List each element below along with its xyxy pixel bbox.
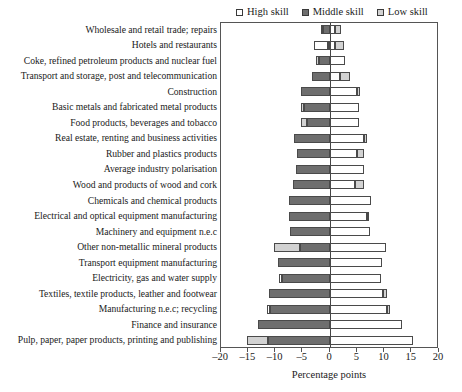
category-label: Real estate, renting and business activi… [0, 133, 217, 143]
bar-row [221, 178, 437, 194]
category-label: Construction [0, 87, 217, 97]
bar-segment-high-skill [330, 180, 355, 189]
bar-segment-high-skill [330, 118, 359, 127]
x-axis-tick-label: 15 [406, 352, 417, 363]
plot-area [220, 22, 438, 348]
square-outline-icon [236, 9, 243, 16]
bar-row [221, 225, 437, 241]
square-light-icon [377, 9, 384, 16]
bar-segment-high-skill [330, 305, 387, 314]
category-label: Food products, beverages and tobacco [0, 118, 217, 128]
bar-row [221, 163, 437, 179]
bar-segment-high-skill [330, 320, 402, 329]
x-axis-tick-label: 20 [433, 352, 444, 363]
category-label: Wood and products of wood and cork [0, 180, 217, 190]
bar-segment-high-skill [330, 336, 413, 345]
legend-label-low-skill: Low skill [388, 7, 428, 18]
bar-segment-low-skill [367, 212, 370, 221]
bar-segment-high-skill [330, 134, 364, 143]
bar-segment-high-skill [330, 196, 371, 205]
bar-segment-high-skill [330, 289, 383, 298]
category-label: Machinery and equipment n.e.c [0, 227, 217, 237]
category-label: Transport and storage, post and telecomm… [0, 71, 217, 81]
category-label: Manufacturing n.e.c; recycling [0, 304, 217, 314]
bar-row [221, 85, 437, 101]
bar-row [221, 132, 437, 148]
category-label: Electrical and optical equipment manufac… [0, 211, 217, 221]
bar-segment-low-skill [387, 305, 390, 314]
x-axis-tick-label: –5 [297, 352, 308, 363]
bar-segment-high-skill [330, 149, 357, 158]
bar-segment-high-skill [330, 103, 359, 112]
bar-segment-low-skill [340, 72, 350, 81]
bar-row [221, 194, 437, 210]
category-label: Basic metals and fabricated metal produc… [0, 102, 217, 112]
chart-legend: High skill Middle skill Low skill [236, 5, 428, 19]
bar-row [221, 318, 437, 334]
x-axis-tick-label: 5 [354, 352, 359, 363]
bar-segment-low-skill [364, 134, 367, 143]
square-filled-icon [302, 9, 309, 16]
category-label: Rubber and plastics products [0, 149, 217, 159]
bar-segment-high-skill [330, 243, 386, 252]
x-axis-tick-label: 10 [378, 352, 389, 363]
x-axis-tick-labels: –20–15–10–505101520 [220, 352, 438, 366]
bar-segment-high-skill [330, 274, 381, 283]
bar-row [221, 147, 437, 163]
x-axis-title: Percentage points [220, 370, 438, 381]
legend-entry-low-skill: Low skill [377, 7, 428, 18]
category-label: Transport equipment manufacturing [0, 258, 217, 268]
legend-label-middle-skill: Middle skill [313, 7, 364, 18]
bar-segment-low-skill [357, 149, 364, 158]
category-label: Finance and insurance [0, 320, 217, 330]
bar-segment-low-skill [357, 87, 360, 96]
bar-row [221, 116, 437, 132]
bar-segment-low-skill [335, 41, 344, 50]
legend-entry-middle-skill: Middle skill [302, 7, 364, 18]
bar-segment-high-skill [330, 87, 357, 96]
bar-segment-low-skill [335, 25, 341, 34]
bar-row [221, 302, 437, 318]
bar-row [221, 287, 437, 303]
bar-segment-high-skill [330, 212, 367, 221]
category-label: Chemicals and chemical products [0, 196, 217, 206]
bar-segment-high-skill [330, 56, 345, 65]
bar-segment-low-skill [355, 180, 364, 189]
bar-row [221, 70, 437, 86]
bar-row [221, 333, 437, 349]
bar-segment-high-skill [330, 258, 382, 267]
x-axis-tick-label: 0 [326, 352, 331, 363]
category-label: Textiles, textile products, leather and … [0, 289, 217, 299]
category-label: Other non-metallic mineral products [0, 242, 217, 252]
category-label: Coke, refined petroleum products and nuc… [0, 56, 217, 66]
category-label: Pulp, paper, paper products, printing an… [0, 335, 217, 345]
bar-row [221, 209, 437, 225]
category-axis-labels: Wholesale and retail trade; repairsHotel… [0, 22, 217, 348]
x-axis-tick-label: –10 [267, 352, 283, 363]
bar-row [221, 271, 437, 287]
category-label: Electricity, gas and water supply [0, 273, 217, 283]
bar-row [221, 23, 437, 39]
category-label: Hotels and restaurants [0, 40, 217, 50]
legend-label-high-skill: High skill [247, 7, 289, 18]
bar-row [221, 54, 437, 70]
category-label: Wholesale and retail trade; repairs [0, 25, 217, 35]
polarisation-bar-chart: High skill Middle skill Low skill Wholes… [0, 0, 462, 392]
bar-segment-high-skill [330, 227, 370, 236]
bar-row [221, 240, 437, 256]
bar-row [221, 101, 437, 117]
bar-row [221, 256, 437, 272]
bar-segment-low-skill [383, 289, 386, 298]
category-label: Average industry polarisation [0, 164, 217, 174]
bar-segment-high-skill [330, 72, 340, 81]
x-axis-tick-label: –20 [212, 352, 228, 363]
legend-entry-high-skill: High skill [236, 7, 289, 18]
x-axis-tick-label: –15 [239, 352, 255, 363]
bar-row [221, 39, 437, 55]
bar-segment-high-skill [330, 165, 364, 174]
